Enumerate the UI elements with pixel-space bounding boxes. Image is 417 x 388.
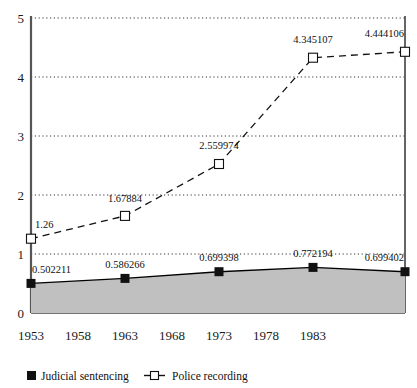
police-value-1983: 4.345107 xyxy=(293,34,332,45)
y-axis-tick-labels: 5 4 3 2 1 0 xyxy=(18,11,25,321)
police-value-1988: 4.444106 xyxy=(365,28,404,39)
judicial-marker-1988 xyxy=(401,267,410,276)
x-axis-tick-labels: 1953 1958 1963 1968 1973 1978 1983 xyxy=(18,328,326,343)
y-tick-5: 5 xyxy=(18,11,25,26)
x-tick-1973: 1973 xyxy=(206,328,232,343)
chart-container: 5 4 3 2 1 0 1953 1958 1963 1968 1973 197… xyxy=(0,0,417,388)
x-tick-1968: 1968 xyxy=(159,328,185,343)
police-value-1973: 2.559974 xyxy=(199,140,239,151)
police-value-1953: 1.26 xyxy=(35,219,53,230)
x-tick-1978: 1978 xyxy=(253,328,279,343)
x-tick-1983: 1983 xyxy=(300,328,326,343)
y-tick-1: 1 xyxy=(18,247,25,262)
police-marker-1973 xyxy=(215,160,224,169)
police-marker-1983 xyxy=(309,53,318,62)
legend-label-police-recording: Police recording xyxy=(172,370,248,383)
judicial-marker-1973 xyxy=(215,267,224,276)
judicial-value-1983: 0.772194 xyxy=(293,248,333,259)
judicial-marker-1963 xyxy=(121,274,130,283)
y-tick-2: 2 xyxy=(18,188,25,203)
police-marker-1953 xyxy=(27,234,36,243)
police-value-1963: 1.67884 xyxy=(108,193,143,204)
legend-open-square-icon xyxy=(151,372,159,380)
legend-filled-square-icon xyxy=(27,371,36,380)
judicial-marker-1953 xyxy=(27,279,36,288)
judicial-value-1988: 0.699402 xyxy=(365,252,404,263)
legend-label-judicial-sentencing: Judicial sentencing xyxy=(41,370,129,383)
judicial-marker-1983 xyxy=(309,263,318,272)
y-tick-3: 3 xyxy=(18,129,25,144)
chart-legend: Judicial sentencing Police recording xyxy=(27,370,248,383)
x-tick-1953: 1953 xyxy=(18,328,44,343)
y-tick-0: 0 xyxy=(18,306,25,321)
police-marker-1988 xyxy=(401,47,410,56)
judicial-value-1963: 0.586266 xyxy=(105,259,144,270)
x-tick-1963: 1963 xyxy=(112,328,138,343)
x-tick-1958: 1958 xyxy=(65,328,91,343)
police-marker-1963 xyxy=(121,211,130,220)
judicial-value-1973: 0.699398 xyxy=(199,252,238,263)
judicial-value-1953: 0.502211 xyxy=(32,264,71,275)
y-tick-4: 4 xyxy=(18,70,25,85)
combination-area-line-chart: 5 4 3 2 1 0 1953 1958 1963 1968 1973 197… xyxy=(0,0,417,388)
